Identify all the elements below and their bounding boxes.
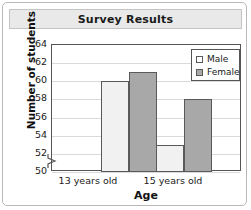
bar-male-0 — [101, 81, 129, 172]
legend-swatch-female-icon — [196, 69, 203, 76]
legend-item-female: Female — [196, 66, 239, 78]
y-tick-label-3: 56 — [23, 112, 47, 122]
legend-label-female: Female — [207, 68, 240, 77]
gridline — [52, 172, 240, 173]
bar-female-0 — [129, 72, 157, 172]
y-tick-label-2: 54 — [23, 130, 47, 140]
y-axis-tick-labels: 5052545658606264 — [21, 44, 47, 171]
chart-title: Survey Results — [78, 13, 174, 26]
y-tick-label-6: 62 — [23, 57, 47, 67]
chart-card: Survey Results Number of students 505254… — [2, 2, 247, 206]
axis-break-icon — [46, 153, 58, 169]
chart-legend: Male Female — [191, 49, 240, 81]
bar-male-1 — [156, 145, 184, 172]
chart-screenshot: Survey Results Number of students 505254… — [0, 0, 251, 210]
y-tick-label-4: 58 — [23, 93, 47, 103]
y-tick-label-1: 52 — [23, 148, 47, 158]
y-tick-label-5: 60 — [23, 75, 47, 85]
x-tick-label-1: 15 years old — [128, 175, 218, 186]
legend-item-male: Male — [196, 53, 239, 65]
bar-female-1 — [184, 99, 212, 172]
legend-label-male: Male — [207, 55, 228, 64]
x-axis-title: Age — [51, 189, 241, 202]
chart-title-bar: Survey Results — [9, 9, 242, 29]
legend-swatch-male-icon — [196, 56, 203, 63]
y-tick-label-7: 64 — [23, 39, 47, 49]
x-tick-label-0: 13 years old — [43, 175, 133, 186]
